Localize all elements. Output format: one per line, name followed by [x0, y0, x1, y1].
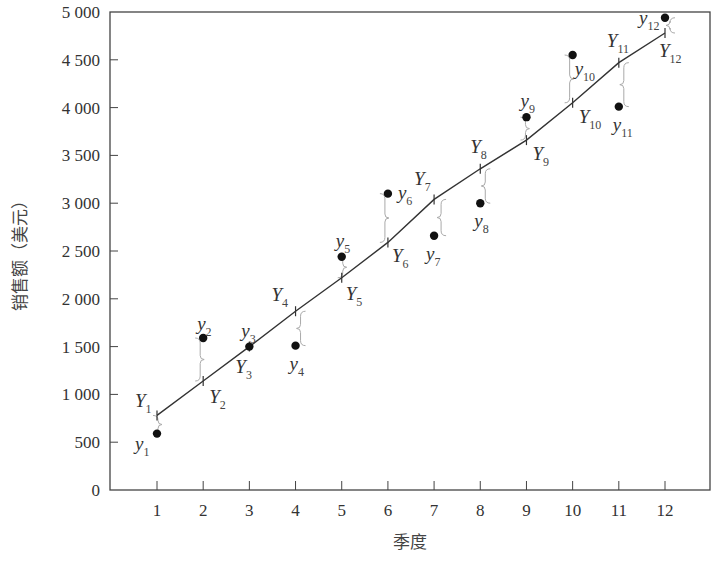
point-labels: y1Y1y2Y2y3Y3y4Y4y5Y5y6Y6y7Y7y8Y8y9Y9y10Y…: [133, 7, 682, 459]
x-tick-label: 2: [199, 501, 208, 520]
y-tick-label: 3 000: [62, 194, 100, 213]
point-label: Y10: [579, 106, 602, 132]
point-label: Y5: [346, 283, 363, 309]
point-label: Y1: [135, 390, 152, 416]
point-label: y3: [239, 320, 255, 346]
y-tick-label: 2 500: [62, 242, 100, 261]
y-tick-label: 3 500: [62, 146, 100, 165]
plot-area-frame: [110, 12, 710, 490]
point-label: y6: [396, 182, 412, 208]
point-label: Y6: [392, 245, 409, 271]
x-tick-label: 5: [337, 501, 346, 520]
point-label: Y12: [659, 40, 682, 66]
data-point: [476, 199, 484, 207]
y-tick-label: 4 500: [62, 51, 100, 70]
point-label: y10: [573, 58, 595, 84]
data-point: [661, 14, 669, 22]
x-tick-label: 10: [564, 501, 581, 520]
point-label: Y8: [470, 136, 487, 162]
y-tick-label: 0: [92, 481, 101, 500]
x-tick-label: 1: [153, 501, 162, 520]
point-label: Y7: [414, 168, 431, 194]
x-tick-label: 4: [291, 501, 300, 520]
trend-line: [157, 33, 665, 415]
point-label: y8: [472, 210, 488, 236]
deviation-braces: [153, 18, 675, 434]
point-label: y11: [611, 114, 633, 140]
x-tick-label: 9: [522, 501, 531, 520]
y-tick-label: 1 000: [62, 385, 100, 404]
y-tick-label: 5 000: [62, 3, 100, 22]
point-label: Y3: [235, 356, 252, 382]
y-tick-label: 500: [75, 433, 101, 452]
data-point: [291, 341, 299, 349]
point-label: y9: [518, 90, 534, 116]
x-axis: 123456789101112: [153, 481, 674, 520]
point-label: y5: [334, 230, 350, 256]
scatter-chart: 05001 0001 5002 0002 5003 0003 5004 0004…: [0, 0, 716, 565]
y-tick-label: 1 500: [62, 338, 100, 357]
data-point: [430, 232, 438, 240]
trend-line-ticks: [157, 28, 665, 420]
y-axis-title: 销售额（美元）: [10, 192, 30, 311]
y-tick-label: 4 000: [62, 99, 100, 118]
point-label: y12: [637, 7, 659, 33]
x-tick-label: 7: [430, 501, 439, 520]
point-label: Y9: [532, 143, 549, 169]
x-tick-label: 8: [476, 501, 485, 520]
y-tick-label: 2 000: [62, 290, 100, 309]
point-label: Y4: [272, 284, 289, 310]
point-label: y4: [288, 353, 304, 379]
point-label: Y11: [607, 30, 629, 56]
data-point: [153, 429, 161, 437]
x-tick-label: 11: [611, 501, 627, 520]
data-point: [384, 189, 392, 197]
x-tick-label: 3: [245, 501, 254, 520]
x-axis-title: 季度: [393, 532, 427, 552]
x-tick-label: 12: [657, 501, 674, 520]
point-label: y7: [424, 243, 440, 269]
data-point: [615, 102, 623, 110]
point-label: y1: [133, 433, 149, 459]
point-label: Y2: [209, 386, 226, 412]
x-tick-label: 6: [384, 501, 393, 520]
